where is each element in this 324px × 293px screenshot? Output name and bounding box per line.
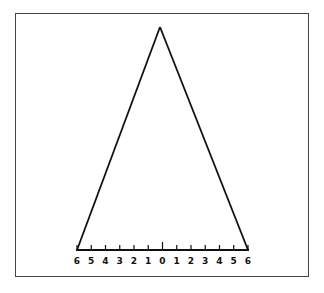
scale-label: 6 (74, 256, 80, 266)
scale-label: 3 (117, 256, 123, 266)
scale-label: 4 (102, 256, 108, 266)
triangle-right-side (160, 27, 248, 250)
scale-label: 0 (159, 256, 165, 266)
scale-label: 5 (231, 256, 237, 266)
scale-label: 1 (174, 256, 180, 266)
scale-label: 5 (88, 256, 94, 266)
scale-label: 3 (202, 256, 208, 266)
triangle-diagram (0, 0, 324, 293)
triangle-left-side (77, 27, 160, 250)
scale-label: 2 (188, 256, 194, 266)
scale-label: 4 (216, 256, 222, 266)
scale-label: 6 (245, 256, 251, 266)
scale-label: 1 (145, 256, 151, 266)
scale-label: 2 (131, 256, 137, 266)
